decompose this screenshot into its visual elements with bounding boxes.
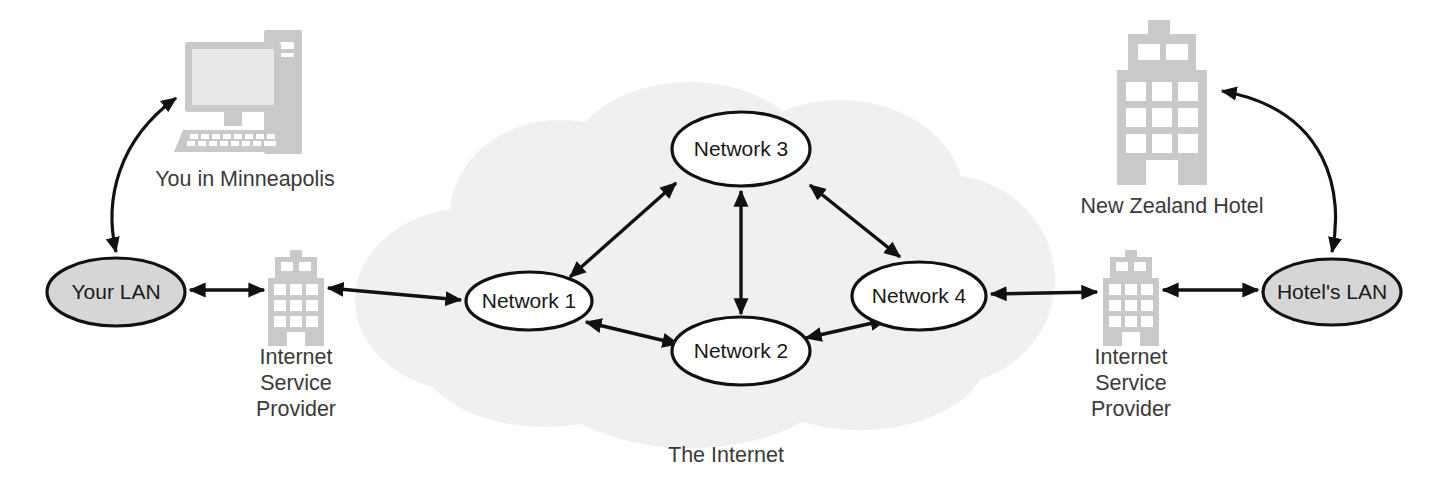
node-hotel-lan-label: Hotel's LAN [1277,280,1387,303]
node-your-lan-label: Your LAN [71,280,160,303]
isp-right-caption-line1: Internet [1095,345,1168,369]
node-network-1-label: Network 1 [482,289,577,312]
isp-left-caption-line3: Provider [256,397,336,421]
isp-right-caption-line3: Provider [1091,397,1171,421]
node-network-4-label: Network 4 [872,284,967,307]
link-hotel-lan-hotel [1222,91,1336,252]
isp-left-caption-line2: Service [260,371,332,395]
desktop-computer-icon [174,30,302,154]
hotel-building-icon [1117,20,1207,185]
isp-left-caption-line1: Internet [260,345,333,369]
diagram-canvas: You in Minneapolis Your LAN [0,0,1442,490]
network-topology-diagram: You in Minneapolis Your LAN [0,0,1442,490]
node-network-2-label: Network 2 [694,339,789,362]
computer-caption: You in Minneapolis [155,167,335,191]
office-building-icon-left [268,250,324,346]
cloud-caption: The Internet [668,443,784,467]
hotel-caption: New Zealand Hotel [1081,194,1264,218]
node-network-3-label: Network 3 [694,137,789,160]
isp-right-caption-line2: Service [1095,371,1167,395]
link-network-4-isp-right [991,292,1097,294]
office-building-icon-right [1103,250,1159,346]
